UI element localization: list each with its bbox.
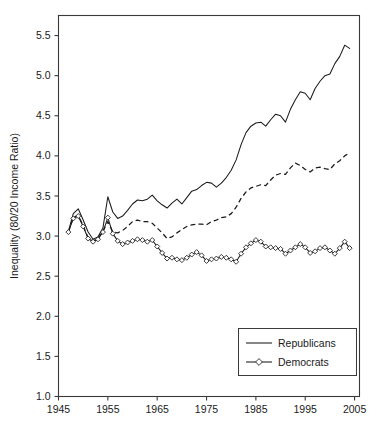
chart-figure: 1.01.52.02.53.03.54.04.55.05.5 194519551…	[0, 0, 377, 428]
chart-legend: Republicans Democrats	[239, 329, 357, 376]
x-tick-label: 1995	[294, 403, 318, 415]
y-axis-title: Inequality (80/20 Income Ratio)	[8, 133, 20, 279]
y-tick-label: 5.0	[36, 69, 51, 81]
y-tick-label: 5.5	[36, 29, 51, 41]
x-tick-label: 1965	[146, 403, 170, 415]
x-tick-label: 1955	[96, 403, 120, 415]
y-tick-label: 2.0	[36, 310, 51, 322]
x-tick-label: 2005	[343, 403, 367, 415]
y-tick-label: 3.5	[36, 190, 51, 202]
inequality-line-chart: 1.01.52.02.53.03.54.04.55.05.5 194519551…	[0, 0, 377, 428]
y-tick-label: 1.0	[36, 390, 51, 402]
y-tick-label: 4.5	[36, 109, 51, 121]
x-tick-label: 1975	[195, 403, 219, 415]
x-tick-label: 1945	[47, 403, 71, 415]
legend-label-democrats: Democrats	[278, 356, 329, 368]
y-tick-label: 4.0	[36, 149, 51, 161]
y-tick-label: 2.5	[36, 270, 51, 282]
y-tick-label: 1.5	[36, 350, 51, 362]
legend-label-republicans: Republicans	[278, 337, 336, 349]
x-tick-label: 1985	[244, 403, 268, 415]
y-tick-label: 3.0	[36, 230, 51, 242]
